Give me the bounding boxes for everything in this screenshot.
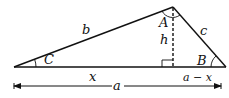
label-C: C — [44, 52, 54, 67]
angle-arc-C — [35, 59, 36, 67]
label-x: x — [89, 69, 97, 84]
label-a-minus-x: a − x — [183, 71, 213, 84]
label-A: A — [158, 15, 168, 30]
side-b — [14, 7, 173, 67]
right-angle-marker — [162, 60, 173, 67]
label-c: c — [200, 23, 208, 38]
label-b: b — [82, 22, 90, 37]
label-B: B — [196, 53, 207, 68]
triangle-diagram: b c h A B C x a − x a — [0, 0, 229, 98]
angle-arc-B — [211, 56, 216, 67]
label-a: a — [113, 78, 121, 93]
label-h: h — [160, 32, 168, 47]
